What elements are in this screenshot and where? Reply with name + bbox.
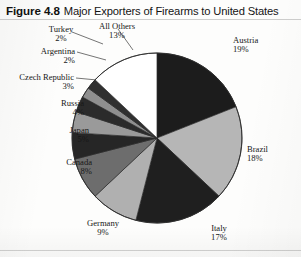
pie-label-czech-republic-value: 3% — [2, 82, 74, 91]
pie-label-all-others: All Others 13% — [88, 22, 146, 40]
pie-label-japan-value: 5% — [45, 135, 89, 144]
pie-label-germany: Germany 9% — [74, 219, 132, 237]
pie-label-czech-republic: Czech Republic 3% — [2, 73, 74, 91]
pie-label-germany-value: 9% — [74, 228, 132, 237]
pie-label-all-others-value: 13% — [88, 31, 146, 40]
pie-label-austria: Austria 19% — [233, 36, 295, 54]
pie-label-italy: Italy 17% — [196, 224, 242, 242]
leader-line-czech-republic — [76, 78, 97, 80]
figure-container: Figure 4.8Major Exporters of Firearms to… — [0, 0, 301, 257]
pie-label-japan: Japan 5% — [45, 126, 89, 144]
pie-slices — [72, 53, 242, 223]
pie-label-italy-value: 17% — [196, 233, 242, 242]
pie-label-canada-value: 8% — [40, 167, 92, 176]
pie-label-russia-value: 4% — [32, 108, 84, 117]
pie-label-turkey: Turkey 2% — [40, 25, 82, 43]
pie-label-argentina: Argentina 2% — [17, 47, 75, 65]
pie-label-russia: Russia 4% — [32, 99, 84, 117]
pie-label-canada: Canada 8% — [40, 158, 92, 176]
pie-label-argentina-value: 2% — [17, 56, 75, 65]
pie-label-brazil: Brazil 18% — [247, 145, 297, 163]
pie-label-brazil-value: 18% — [247, 154, 297, 163]
pie-label-turkey-value: 2% — [40, 34, 82, 43]
pie-label-austria-value: 19% — [233, 45, 295, 54]
leader-line-argentina — [77, 52, 106, 60]
